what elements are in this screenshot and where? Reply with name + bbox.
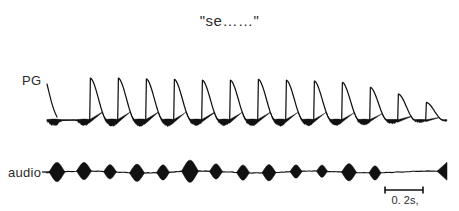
audio-burst bbox=[182, 160, 199, 182]
audio-burst bbox=[157, 165, 170, 180]
figure-canvas: "se……" PG audio 0. 2s, bbox=[0, 0, 459, 211]
audio-trace-label: audio bbox=[8, 165, 41, 180]
audio-burst bbox=[342, 164, 357, 181]
waveform-plot bbox=[0, 0, 459, 211]
pg-lead-in bbox=[47, 84, 57, 117]
scale-bar bbox=[385, 187, 423, 194]
audio-burst bbox=[210, 164, 223, 179]
audio-terminal-flare bbox=[437, 162, 447, 180]
audio-waveform bbox=[42, 160, 447, 182]
scale-bar-label: 0. 2s, bbox=[379, 194, 431, 206]
audio-burst bbox=[317, 165, 328, 177]
audio-burst bbox=[290, 165, 302, 178]
audio-burst bbox=[369, 166, 381, 180]
audio-burst bbox=[130, 164, 145, 181]
pg-centerline bbox=[47, 78, 447, 120]
pg-closed-phase-ink bbox=[47, 112, 447, 127]
audio-burst bbox=[237, 165, 250, 180]
audio-burst bbox=[262, 165, 276, 181]
utterance-title: "se……" bbox=[0, 12, 459, 29]
pg-waveform bbox=[47, 78, 447, 126]
audio-burst bbox=[104, 165, 117, 179]
audio-burst bbox=[49, 163, 65, 182]
pg-trace-label: PG bbox=[22, 73, 41, 88]
audio-burst bbox=[77, 163, 92, 180]
